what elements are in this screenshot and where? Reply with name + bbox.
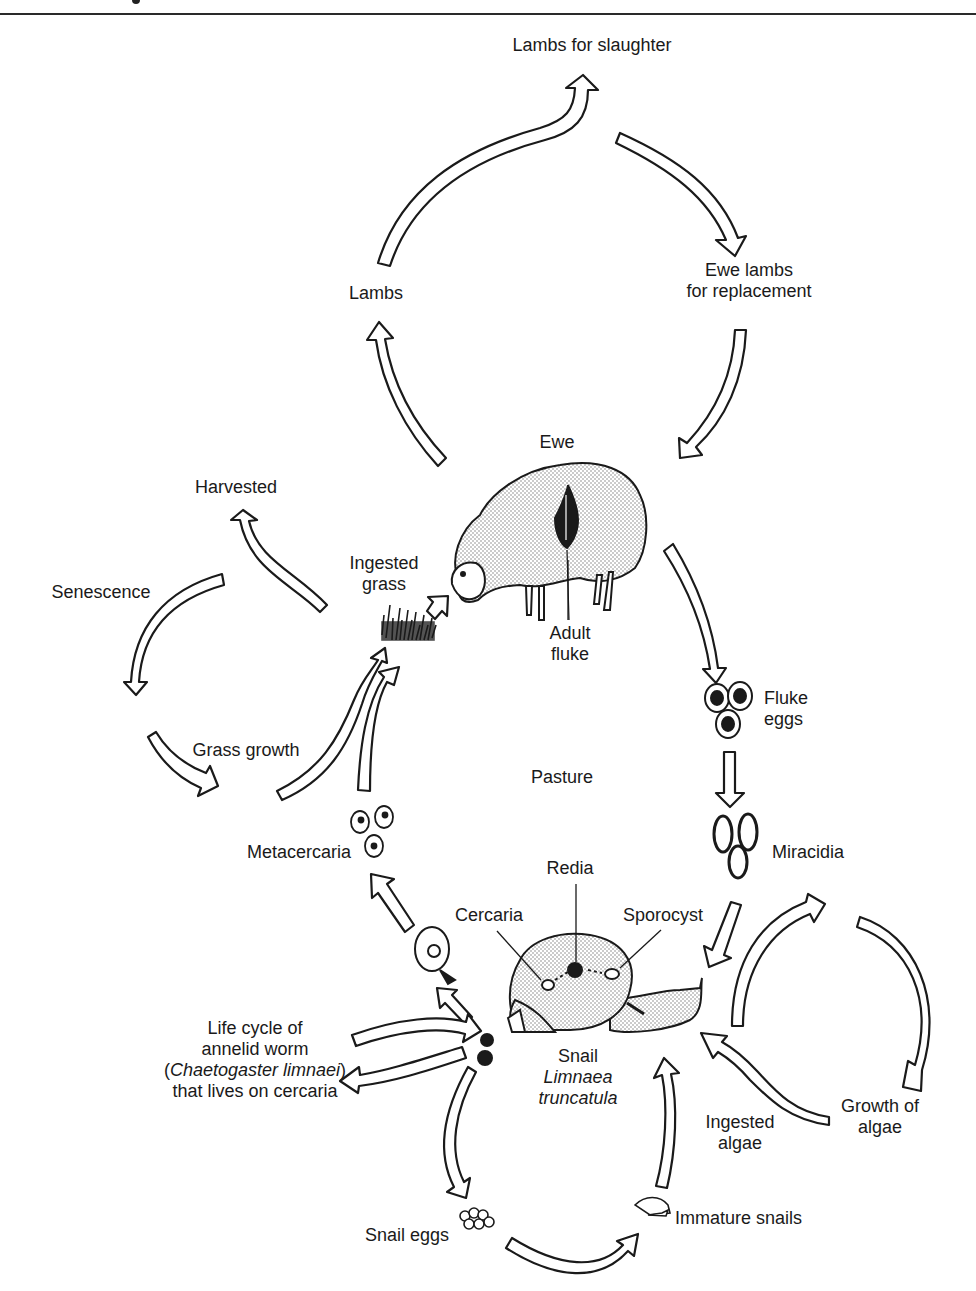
label-annelid-species: Chaetogaster limnaei — [170, 1060, 340, 1080]
arrow-cercaria-to-metacercaria — [371, 874, 414, 932]
label-senescence: Senescence — [51, 582, 150, 603]
metacercaria-illustration — [351, 806, 393, 857]
label-annelid-line2: annelid worm — [164, 1039, 346, 1060]
label-snail-line1: Snail — [538, 1046, 617, 1067]
label-ingested-algae-line2: algae — [705, 1133, 774, 1154]
label-pasture: Pasture — [531, 767, 593, 788]
arrow-snail-eggs-to-immature — [506, 1234, 638, 1273]
annelid-illustration — [478, 1034, 493, 1065]
label-cercaria: Cercaria — [455, 905, 523, 926]
label-ewe-lambs-line2: for replacement — [686, 281, 811, 302]
label-snail-species-line2: truncatula — [538, 1088, 617, 1109]
label-redia: Redia — [546, 858, 593, 879]
label-growth-of-algae-line1: Growth of — [841, 1096, 919, 1117]
label-ingested-algae: Ingested algae — [705, 1112, 774, 1154]
cercaria-cyst-illustration — [415, 927, 455, 984]
label-grass-growth: Grass growth — [192, 740, 299, 761]
arrow-slaughter-to-ewe-lambs — [616, 133, 746, 256]
label-lambs-for-slaughter: Lambs for slaughter — [512, 35, 671, 56]
label-ingested-algae-line1: Ingested — [705, 1112, 774, 1133]
arrow-algae-cycle-down — [857, 917, 930, 1091]
ewe-illustration — [452, 463, 647, 620]
label-adult-fluke-line2: fluke — [549, 644, 590, 665]
snail-illustration — [508, 934, 702, 1032]
label-snail-species-line1: Limnaea — [538, 1067, 617, 1088]
arrow-fluke-eggs-to-miracidia — [716, 752, 744, 807]
label-ingested-grass-line2: grass — [349, 574, 418, 595]
arrow-immature-to-snail — [654, 1058, 679, 1188]
label-ewe-lambs: Ewe lambs for replacement — [686, 260, 811, 302]
label-ewe: Ewe — [539, 432, 574, 453]
label-fluke-eggs: Fluke eggs — [764, 688, 808, 730]
arrow-to-harvested — [231, 510, 327, 612]
arrow-ewe-to-fluke-eggs — [664, 544, 726, 683]
label-harvested: Harvested — [195, 477, 277, 498]
label-fluke-eggs-line1: Fluke — [764, 688, 808, 709]
label-snail: Snail Limnaea truncatula — [538, 1046, 617, 1109]
arrow-algae-cycle-up — [732, 894, 825, 1026]
arrow-lambs-to-slaughter — [378, 75, 598, 266]
label-immature-snails: Immature snails — [675, 1208, 802, 1229]
label-adult-fluke-line1: Adult — [549, 623, 590, 644]
immature-snail-illustration — [635, 1198, 670, 1217]
arrow-grass-to-ewe — [427, 596, 448, 619]
label-lambs: Lambs — [349, 283, 403, 304]
label-ewe-lambs-line1: Ewe lambs — [686, 260, 811, 281]
label-snail-eggs: Snail eggs — [365, 1225, 449, 1246]
arrow-ewe-lambs-to-ewe — [679, 330, 746, 458]
arrow-miracidia-to-snail — [704, 902, 741, 967]
label-growth-of-algae: Growth of algae — [841, 1096, 919, 1138]
label-annelid-paren-close: ) — [340, 1060, 346, 1080]
snail-eggs-illustration — [460, 1208, 494, 1229]
arrow-snail-to-snail-eggs — [444, 1067, 476, 1198]
label-annelid-life-cycle: Life cycle of annelid worm (Chaetogaster… — [164, 1018, 346, 1102]
label-annelid-line1: Life cycle of — [164, 1018, 346, 1039]
arrow-ewe-to-lambs — [367, 322, 446, 466]
label-ingested-grass-line1: Ingested — [349, 553, 418, 574]
label-annelid-line4: that lives on cercaria — [164, 1081, 346, 1102]
arrow-annelid-out — [340, 1047, 466, 1093]
label-annelid-line3: (Chaetogaster limnaei) — [164, 1060, 346, 1081]
label-miracidia: Miracidia — [772, 842, 844, 863]
label-sporocyst: Sporocyst — [623, 905, 703, 926]
label-fluke-eggs-line2: eggs — [764, 709, 808, 730]
miracidia-illustration — [714, 814, 757, 878]
label-metacercaria: Metacercaria — [247, 842, 351, 863]
fluke-eggs-illustration — [705, 682, 752, 738]
label-adult-fluke: Adult fluke — [549, 623, 590, 665]
label-ingested-grass: Ingested grass — [349, 553, 418, 595]
life-cycle-diagram — [0, 0, 976, 1291]
label-growth-of-algae-line2: algae — [841, 1117, 919, 1138]
